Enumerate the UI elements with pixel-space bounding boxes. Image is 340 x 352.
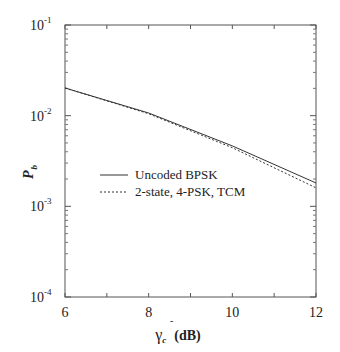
svg-text:γc(dB): γc(dB) <box>154 326 201 345</box>
x-axis-title: γc(dB) - <box>154 315 201 345</box>
chart: 681012 10-110-210-310-4 Uncoded BPSK2-st… <box>0 0 340 352</box>
y-tick-label: 10-3 <box>30 196 52 214</box>
x-tick-label: 8 <box>145 305 152 320</box>
svg-text:Pb: Pb <box>21 164 39 179</box>
y-tick-label: 10-1 <box>30 15 52 33</box>
y-axis-ticks: 10-110-210-310-4 <box>30 15 316 305</box>
y-axis-title: Pb <box>21 164 39 179</box>
x-axis-title-symbol: γ <box>154 326 162 344</box>
legend: Uncoded BPSK2-state, 4-PSK, TCM <box>100 167 246 199</box>
x-tick-label: 12 <box>309 305 323 320</box>
plot-frame <box>65 25 316 297</box>
legend-label: 2-state, 4-PSK, TCM <box>135 184 246 199</box>
x-axis-title-unit: (dB) <box>174 328 201 344</box>
x-axis-title-bar: - <box>170 315 173 326</box>
y-tick-label: 10-4 <box>30 287 52 305</box>
x-tick-label: 6 <box>62 305 69 320</box>
plot-border <box>65 25 316 297</box>
y-axis-title-main: P <box>21 170 36 179</box>
y-tick-label: 10-2 <box>30 106 52 124</box>
x-axis-title-sub: c <box>162 335 166 345</box>
x-tick-label: 10 <box>225 305 239 320</box>
y-axis-title-sub: b <box>29 164 39 169</box>
legend-label: Uncoded BPSK <box>135 167 218 182</box>
